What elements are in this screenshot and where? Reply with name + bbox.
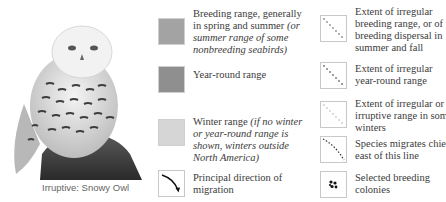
legend-label: Extent of irregular breeding range, or o… <box>355 6 446 54</box>
migration-arrow-box <box>158 170 185 197</box>
breeding-range-swatch <box>158 18 185 45</box>
legend-item-migrates-east: Species migrates chiefly east of this li… <box>320 136 446 163</box>
legend-label: Species migrates chiefly east of this li… <box>355 138 446 162</box>
legend-label: Breeding range, generally in spring and … <box>193 8 311 56</box>
legend-item-winter-range: Winter range (if no winter or year-round… <box>158 116 311 164</box>
legend-label: Selected breeding colonies <box>355 172 446 196</box>
irruptive-winter-icon-box <box>320 101 347 128</box>
legend-label: Principal direction of migration <box>193 172 311 196</box>
dotted-diagonal-line-icon <box>321 16 346 41</box>
illustration-caption: Irruptive: Snowy Owl <box>42 182 129 193</box>
breeding-colonies-icon-box <box>320 171 347 198</box>
legend-label: Extent of irregular or irruptive range i… <box>355 98 446 134</box>
snowy-owl-illustration <box>2 14 148 180</box>
dotted-diagonal-line-icon <box>321 63 346 88</box>
legend-item-year-round-range: Year-round range <box>158 66 273 93</box>
legend-label: Extent of irregular year-round range <box>355 63 446 87</box>
legend-item-breeding-range: Breeding range, generally in spring and … <box>158 8 311 56</box>
irregular-breeding-icon-box <box>320 15 347 42</box>
year-round-range-swatch <box>158 66 185 93</box>
legend-item-irregular-year-round: Extent of irregular year-round range <box>320 62 446 89</box>
legend-label: Winter range (if no winter or year-round… <box>193 116 311 164</box>
curved-arrow-icon <box>159 171 184 196</box>
irregular-year-round-icon-box <box>320 62 347 89</box>
legend-item-irruptive-winter: Extent of irregular or irruptive range i… <box>320 98 446 134</box>
legend-item-irregular-breeding: Extent of irregular breeding range, or o… <box>320 6 446 54</box>
legend-item-breeding-colonies: Selected breeding colonies <box>320 171 446 198</box>
winter-range-swatch <box>158 119 185 146</box>
legend-item-migration-direction: Principal direction of migration <box>158 170 311 197</box>
legend-label: Year-round range <box>193 69 273 81</box>
faint-dotted-diagonal-line-icon <box>321 102 346 127</box>
dashed-diagonal-line-icon <box>321 137 346 162</box>
migrates-east-icon-box <box>320 136 347 163</box>
dot-cluster-icon <box>321 172 346 197</box>
owl-illustration-area: Irruptive: Snowy Owl <box>0 0 150 202</box>
